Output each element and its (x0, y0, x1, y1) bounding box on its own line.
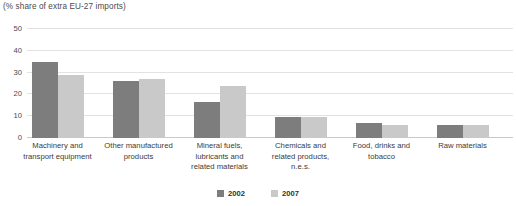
bar-group (113, 29, 165, 138)
bar-2007 (301, 117, 327, 138)
bar-group (356, 29, 408, 138)
category-label-line: Food, drinks and (337, 141, 427, 152)
category-label-line: n.e.s. (256, 162, 346, 173)
category-label: Machinery andtransport equipment (13, 141, 103, 162)
legend-label: 2002 (228, 189, 245, 198)
bar-2007 (139, 79, 165, 138)
category-label: Raw materials (418, 141, 508, 152)
bar-group (437, 29, 489, 138)
legend-item: 2007 (271, 189, 299, 198)
category-label: Chemicals andrelated products,n.e.s. (256, 141, 346, 173)
bar-group (194, 29, 246, 138)
category-label: Mineral fuels,lubricants andrelated mate… (175, 141, 265, 173)
bar-2007 (463, 125, 489, 138)
bar-2002 (356, 123, 382, 138)
bar-chart: (% share of extra EU-27 imports) 0102030… (0, 0, 516, 206)
category-label-line: lubricants and (175, 152, 265, 163)
y-axis-tick-label: 30 (14, 67, 22, 76)
category-label-line: Machinery and (13, 141, 103, 152)
y-axis-tick-label: 40 (14, 45, 22, 54)
legend-swatch-icon (217, 190, 224, 197)
category-axis-labels: Machinery andtransport equipmentOther ma… (27, 141, 513, 183)
legend-swatch-icon (271, 190, 278, 197)
bar-2007 (58, 75, 84, 138)
category-label-line: Other manufactured (94, 141, 184, 152)
category-label-line: products (94, 152, 184, 163)
category-label-line: Raw materials (418, 141, 508, 152)
category-label-line: related materials (175, 162, 265, 173)
legend-item: 2002 (217, 189, 245, 198)
category-label-line: related products, (256, 152, 346, 163)
category-label-line: Mineral fuels, (175, 141, 265, 152)
bar-2007 (220, 86, 246, 138)
chart-title: (% share of extra EU-27 imports) (3, 2, 126, 11)
bar-2002 (194, 102, 220, 138)
legend-label: 2007 (282, 189, 299, 198)
category-label-line: transport equipment (13, 152, 103, 163)
bar-group (275, 29, 327, 138)
category-label-line: tobacco (337, 152, 427, 163)
bar-2007 (382, 125, 408, 138)
bar-2002 (437, 125, 463, 138)
chart-legend: 20022007 (0, 189, 516, 198)
bar-2002 (32, 62, 58, 138)
category-label: Food, drinks andtobacco (337, 141, 427, 162)
bar-group (32, 29, 84, 138)
y-axis-tick-label: 10 (14, 111, 22, 120)
plot-area: 01020304050 (27, 29, 513, 138)
y-axis-tick-label: 50 (14, 24, 22, 33)
y-axis-tick-label: 20 (14, 89, 22, 98)
category-label-line: Chemicals and (256, 141, 346, 152)
bar-2002 (275, 117, 301, 138)
bar-2002 (113, 81, 139, 138)
category-label: Other manufacturedproducts (94, 141, 184, 162)
